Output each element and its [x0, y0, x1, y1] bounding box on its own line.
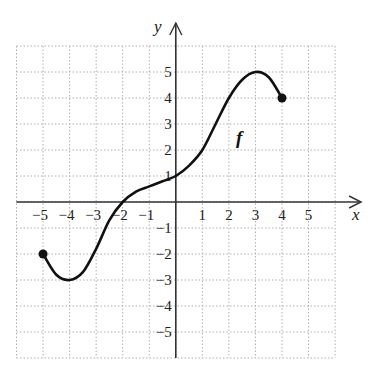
- function-graph: −5−4−3−2−112345−5−4−3−2−112345 x y f: [0, 0, 377, 367]
- y-tick-label: 3: [164, 116, 172, 132]
- x-tick-label: 2: [225, 207, 233, 223]
- x-tick-label: 1: [199, 207, 207, 223]
- y-tick-label: −1: [156, 220, 172, 236]
- x-tick-label: −4: [59, 207, 75, 223]
- y-tick-label: −2: [156, 246, 172, 262]
- y-tick-label: −4: [156, 298, 172, 314]
- x-tick-label: −1: [138, 207, 154, 223]
- x-tick-label: 3: [252, 207, 260, 223]
- x-axis-label: x: [351, 205, 360, 224]
- x-tick-label: −5: [32, 207, 48, 223]
- y-tick-label: 4: [164, 90, 172, 106]
- function-label: f: [236, 127, 244, 148]
- y-tick-label: −3: [156, 272, 172, 288]
- endpoint-dot: [39, 250, 48, 259]
- y-tick-label: 1: [164, 168, 172, 184]
- y-axis-label: y: [152, 17, 162, 36]
- axes: [17, 23, 362, 358]
- y-tick-label: −5: [156, 324, 172, 340]
- y-tick-label: 5: [164, 64, 172, 80]
- endpoint-dot: [278, 94, 287, 103]
- x-tick-label: 4: [278, 207, 286, 223]
- x-tick-label: 5: [305, 207, 313, 223]
- y-tick-label: 2: [164, 142, 172, 158]
- x-tick-label: −3: [85, 207, 101, 223]
